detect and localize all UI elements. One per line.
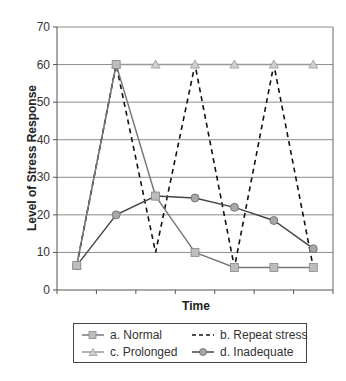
x-axis-title: Time [182, 299, 210, 313]
y-tick-label: 70 [37, 20, 51, 34]
data-series [72, 60, 318, 271]
legend-label: b. Repeat stress [220, 328, 307, 342]
circle-marker [270, 216, 278, 224]
circle-marker [309, 245, 317, 253]
y-tick-label: 0 [43, 283, 50, 297]
y-tick-label: 10 [37, 245, 51, 259]
legend-label: c. Prolonged [110, 345, 177, 359]
legend-item-inadequate: d. Inadequate [192, 345, 293, 359]
circle-marker-icon [192, 347, 214, 357]
y-axis-title: Level of Stress Response [25, 85, 39, 231]
square-marker [270, 263, 278, 271]
series-line [77, 65, 314, 266]
y-tick-label: 60 [37, 58, 51, 72]
square-marker [73, 262, 81, 270]
circle-marker [112, 211, 120, 219]
series-line [77, 65, 314, 268]
legend-item-repeat-stress: b. Repeat stress [192, 328, 307, 342]
square-marker [309, 263, 317, 271]
circle-marker [230, 203, 238, 211]
legend-item-prolonged: c. Prolonged [82, 345, 177, 359]
square-marker [230, 263, 238, 271]
square-marker [112, 61, 120, 69]
square-marker-icon [82, 330, 104, 340]
square-marker [152, 192, 160, 200]
legend-item-normal: a. Normal [82, 328, 162, 342]
legend: a. Normal b. Repeat stress c. Prolonged … [73, 323, 307, 363]
triangle-marker-icon [82, 347, 104, 357]
dashed-line-icon [192, 330, 214, 340]
series-line [77, 65, 314, 268]
square-marker [191, 248, 199, 256]
legend-label: d. Inadequate [220, 345, 293, 359]
legend-label: a. Normal [110, 328, 162, 342]
circle-marker [191, 194, 199, 202]
axes: 010203040506070 [37, 20, 333, 297]
